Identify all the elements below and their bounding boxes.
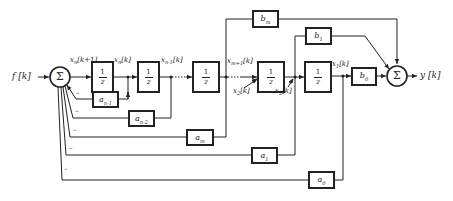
gain-am-label: am [187,134,213,144]
signal-x2-input: x2[k] [233,88,250,96]
minus-sign: – [69,145,73,152]
sum-input-symbol: Σ [54,71,66,82]
delay-n-tf: 1 z [92,69,113,86]
gain-an-1-label: an-1 [93,96,118,106]
input-label: f [k] [12,72,31,81]
gain-a0-label: a0 [309,176,334,186]
delay-m1-tf: 1 z [193,69,219,86]
minus-sign: – [75,108,79,115]
delay-n-1-tf: 1 z [138,69,159,86]
signal-xn: xn[k] [114,57,131,65]
signal-xm1: xm+1[k] [227,58,253,66]
gain-b0-label: b0 [352,72,376,82]
minus-sign: – [76,90,80,97]
gain-a1-label: a1 [252,152,277,162]
signal-x1: x1[k] [332,61,349,69]
signal-xn-next: xn[k+1] [70,57,97,65]
gain-b1-label: b1 [306,32,331,42]
delay-2-tf: 1 z [258,69,284,86]
sum-output-symbol: Σ [391,70,403,81]
output-label: y [k] [420,71,440,80]
minus-sign: – [73,127,77,134]
gain-bm-label: bm [253,15,278,25]
signal-x2-output: x2[k] [275,88,292,96]
gain-an-2-label: an-2 [129,115,154,125]
minus-sign: – [64,166,68,173]
signal-xn-1: xn-1[k] [161,57,183,65]
delay-1-tf: 1 z [305,69,331,86]
